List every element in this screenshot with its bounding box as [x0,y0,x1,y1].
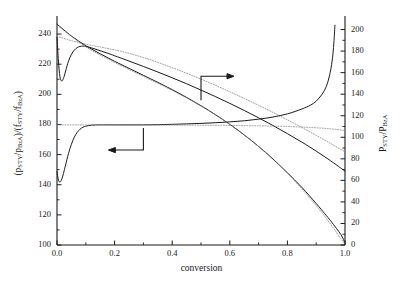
y-left-tick-label: 120 [25,210,51,219]
y-right-tick-label: 180 [351,46,377,55]
x-tick-label: 0.8 [272,249,302,258]
y-right-tick-label: 40 [351,197,377,206]
y-left-tick-label: 220 [25,59,51,68]
y-right-tick-label: 20 [351,218,377,227]
series-declining-solid-right-axis [57,24,345,243]
x-tick-label: 0.2 [100,249,130,258]
plot-canvas [0,0,403,286]
x-axis-title: conversion [0,263,403,273]
y-left-tick-label: 160 [25,150,51,159]
series-declining-dotted-right-axis [57,25,345,244]
arrow-right-head [227,74,234,79]
series-pressure-ratio-solid-right-axis [57,25,335,182]
y-right-tick-label: 60 [351,175,377,184]
y-right-tick-label: 160 [351,68,377,77]
y-left-tick-label: 140 [25,180,51,189]
y-left-tick-label: 200 [25,89,51,98]
y-right-tick-label: 0 [351,240,377,249]
x-tick-label: 0.6 [215,249,245,258]
y-right-title-text: PSTY/PBzA [378,115,388,152]
annotation-arrows-group [108,74,234,153]
y-axis-title-left: (pSTY/pBzA)/(fSTY/fBzA) [13,63,24,203]
x-tick-label: 0.0 [42,249,72,258]
y-left-tick-label: 240 [25,29,51,38]
y-right-tick-label: 140 [351,89,377,98]
data-series-group [57,24,345,244]
chart-figure: 0.00.20.40.60.81.01001201401601802002202… [0,0,403,286]
y-right-tick-label: 200 [351,25,377,34]
y-left-title-text: (pSTY/pBzA)/(fSTY/fBzA) [13,91,23,176]
y-right-tick-label: 120 [351,111,377,120]
series-ratio-solid-left-axis [57,37,345,171]
arrow-left-head [108,147,115,152]
y-right-tick-label: 80 [351,154,377,163]
y-right-tick-label: 100 [351,132,377,141]
arrow-left-elbow [113,128,143,150]
y-axis-title-right: PSTY/PBzA [378,73,389,193]
x-tick-label: 0.4 [157,249,187,258]
x-tick-label: 1.0 [330,249,360,258]
y-left-tick-label: 100 [25,240,51,249]
y-left-tick-label: 180 [25,119,51,128]
